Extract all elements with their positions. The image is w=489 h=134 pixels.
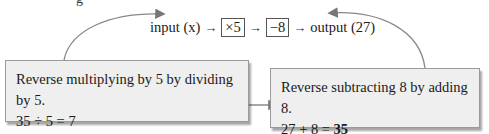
input-label: input (x) [150,19,200,36]
arrow-icon: → [249,20,262,36]
cut-off-heading: g [76,0,83,7]
sum-value: 35 [334,121,349,134]
arrow-icon: → [204,20,217,36]
right-line-1: Reverse subtracting 8 by adding 8. [281,77,469,119]
left-line-3: x = 7 [16,132,238,134]
multiply-box: ×5 [221,18,244,37]
output-label: output (27) [310,19,375,36]
function-machine-flow: input (x) → ×5 → −8 → output (27) [150,18,375,37]
curved-arrow-left [64,14,163,60]
left-line-2: 35 ÷ 5 = 7 [16,111,238,132]
arrow-icon: → [293,20,306,36]
sum-prefix: 27 + 8 = [281,121,334,134]
right-line-2: 27 + 8 = 35 [281,119,469,134]
subtract-box: −8 [266,18,289,37]
left-line-1: Reverse multiplying by 5 by dividing by … [16,69,238,111]
reverse-subtract-box: Reverse subtracting 8 by adding 8. 27 + … [270,68,480,128]
reverse-multiply-box: Reverse multiplying by 5 by dividing by … [5,60,249,122]
